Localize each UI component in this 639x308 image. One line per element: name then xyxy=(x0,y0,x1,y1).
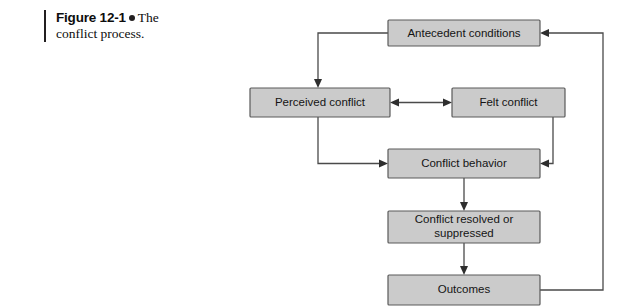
edge-outcomes-feedback-to-antecedent xyxy=(540,33,603,290)
node-conflict-behavior[interactable]: Conflict behavior xyxy=(388,149,540,178)
edge-felt-to-behavior xyxy=(549,117,553,164)
node-perceived-conflict-label: Perceived conflict xyxy=(275,96,366,108)
arrowhead-into-behavior-right xyxy=(540,160,549,168)
node-conflict-behavior-label: Conflict behavior xyxy=(421,157,507,169)
node-felt-conflict-label: Felt conflict xyxy=(479,96,538,108)
figure-page: Figure 12-1The conflict process. Anteced… xyxy=(0,0,639,308)
node-conflict-resolved-label-line-1: Conflict resolved or xyxy=(415,213,514,225)
arrowhead-into-felt-left xyxy=(443,99,452,107)
edge-perceived-to-behavior xyxy=(318,117,379,164)
node-conflict-resolved-label-line-2: suppressed xyxy=(434,227,493,239)
arrowhead-into-antecedent-right xyxy=(540,29,549,37)
arrowhead-into-resolved-top xyxy=(460,202,468,211)
arrowhead-into-perceived-top xyxy=(314,79,322,88)
node-antecedent-conditions[interactable]: Antecedent conditions xyxy=(388,20,540,46)
conflict-process-flowchart: Antecedent conditions Perceived conflict… xyxy=(0,0,639,308)
node-outcomes[interactable]: Outcomes xyxy=(388,275,540,305)
edge-antecedent-to-perceived xyxy=(318,33,388,81)
node-conflict-resolved-or-suppressed[interactable]: Conflict resolved or suppressed xyxy=(388,211,540,243)
node-felt-conflict[interactable]: Felt conflict xyxy=(452,88,565,117)
node-perceived-conflict[interactable]: Perceived conflict xyxy=(250,88,390,117)
arrowhead-into-perceived-right xyxy=(390,99,399,107)
arrowhead-into-behavior-left xyxy=(379,160,388,168)
arrowhead-into-outcomes-top xyxy=(460,266,468,275)
node-antecedent-conditions-label: Antecedent conditions xyxy=(407,27,520,39)
node-outcomes-label: Outcomes xyxy=(438,283,491,295)
